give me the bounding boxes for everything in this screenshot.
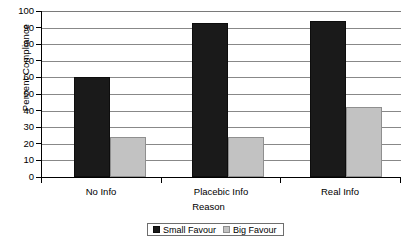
bar-chart: Percent Compliance 100 90 80 70 60 50 40 <box>0 0 417 245</box>
y-tick-100: 100 <box>0 5 41 17</box>
x-tick-mark-start <box>41 178 42 183</box>
y-tick-label: 90 <box>23 22 34 34</box>
y-tick-label: 30 <box>23 121 34 133</box>
y-tick-label: 40 <box>23 105 34 117</box>
y-tick-label: 70 <box>23 55 34 67</box>
legend-swatch-icon <box>153 226 160 233</box>
legend-swatch-icon <box>223 226 230 233</box>
x-tick-mark-end <box>400 178 401 183</box>
legend-label: Small Favour <box>163 225 216 235</box>
bar-real-info-small-favour <box>310 21 346 177</box>
x-category-label-real-info: Real Info <box>300 186 380 197</box>
x-category-label-placebic-info: Placebic Info <box>180 186 262 197</box>
legend-label: Big Favour <box>233 225 277 235</box>
y-tick-label: 0 <box>29 171 34 183</box>
y-tick-label: 10 <box>23 154 34 166</box>
y-tick-30: 30 <box>0 121 41 133</box>
y-tick-20: 20 <box>0 138 41 150</box>
y-tick-label: 60 <box>23 71 34 83</box>
bar-group-placebic-info <box>192 11 280 177</box>
y-tick-50: 50 <box>0 88 41 100</box>
bar-placebic-info-big-favour <box>228 137 264 177</box>
y-tick-label: 50 <box>23 88 34 100</box>
y-tick-80: 80 <box>0 38 41 50</box>
y-tick-label: 80 <box>23 38 34 50</box>
plot-area <box>41 11 401 178</box>
bar-real-info-big-favour <box>346 107 382 177</box>
x-axis-title: Reason <box>0 201 417 212</box>
legend: Small Favour Big Favour <box>147 223 284 236</box>
y-tick-10: 10 <box>0 154 41 166</box>
y-tick-70: 70 <box>0 55 41 67</box>
bar-no-info-small-favour <box>74 77 110 177</box>
x-tick-mark-1 <box>161 178 162 183</box>
y-tick-60: 60 <box>0 71 41 83</box>
y-tick-40: 40 <box>0 105 41 117</box>
bar-placebic-info-small-favour <box>192 23 228 177</box>
y-tick-label: 100 <box>18 5 34 17</box>
y-tick-label: 20 <box>23 138 34 150</box>
x-tick-mark-2 <box>280 178 281 183</box>
y-tick-0: 0 <box>0 171 41 183</box>
bar-no-info-big-favour <box>110 137 146 177</box>
bar-group-real-info <box>310 11 398 177</box>
legend-item-big-favour: Big Favour <box>223 225 277 235</box>
y-tick-90: 90 <box>0 22 41 34</box>
x-category-label-no-info: No Info <box>61 186 141 197</box>
legend-item-small-favour: Small Favour <box>153 225 216 235</box>
bar-group-no-info <box>74 11 162 177</box>
